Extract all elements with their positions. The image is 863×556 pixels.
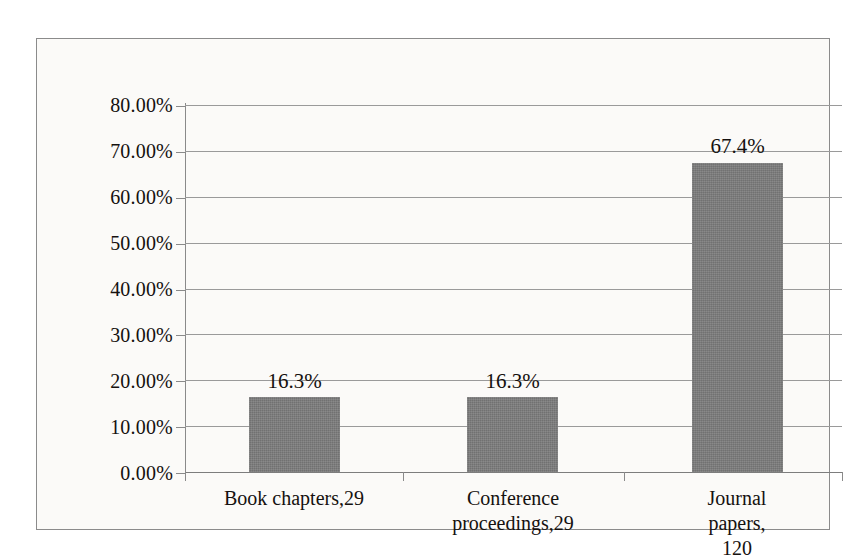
y-tick-label: 40.00% — [69, 278, 173, 301]
bar-conference-proceedings[interactable] — [467, 397, 558, 472]
y-tick-label: 80.00% — [69, 94, 173, 117]
y-tick-mark — [176, 427, 185, 428]
data-label-conference-proceedings: 16.3% — [485, 369, 539, 394]
bar-book-chapters[interactable] — [249, 397, 340, 472]
y-tick-label: 70.00% — [69, 140, 173, 163]
y-tick-mark — [176, 106, 185, 107]
y-tick-mark — [176, 473, 185, 474]
chart-page: 80.00% 70.00% 60.00% 50.00% 40.00% 30.00… — [0, 0, 863, 556]
x-tick-mark — [403, 472, 404, 481]
bar-journal-papers[interactable] — [692, 163, 783, 472]
y-tick-mark — [176, 244, 185, 245]
y-tick-label: 50.00% — [69, 232, 173, 255]
chart-frame: 80.00% 70.00% 60.00% 50.00% 40.00% 30.00… — [36, 38, 830, 530]
y-tick-mark — [176, 152, 185, 153]
y-tick-label: 60.00% — [69, 186, 173, 209]
y-tick-mark — [176, 381, 185, 382]
y-axis-labels: 80.00% 70.00% 60.00% 50.00% 40.00% 30.00… — [61, 105, 173, 472]
y-tick-label: 30.00% — [69, 324, 173, 347]
y-tick-mark — [176, 198, 185, 199]
data-label-book-chapters: 16.3% — [267, 369, 321, 394]
x-tick-mark — [624, 472, 625, 481]
gridline-80 — [185, 105, 842, 106]
x-tick-label-journal-papers: Journal papers, 120 — [691, 486, 783, 556]
plot-area: 16.3% 16.3% 67.4% — [185, 105, 842, 472]
y-tick-mark — [176, 290, 185, 291]
y-tick-label: 20.00% — [69, 370, 173, 393]
y-tick-label: 0.00% — [69, 462, 173, 485]
x-tick-mark — [185, 472, 186, 481]
x-tick-label-book-chapters: Book chapters,29 — [224, 486, 364, 511]
gridline-0-baseline — [185, 472, 842, 473]
y-tick-label: 10.00% — [69, 416, 173, 439]
x-tick-mark — [842, 472, 843, 481]
x-tick-label-conference-proceedings: Conference proceedings,29 — [452, 486, 574, 536]
y-tick-mark — [176, 335, 185, 336]
data-label-journal-papers: 67.4% — [710, 134, 764, 159]
